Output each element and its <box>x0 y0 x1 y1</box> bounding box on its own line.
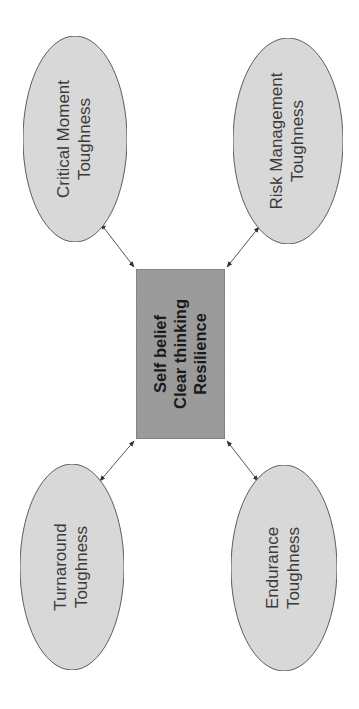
node-label-line-2: Toughness <box>288 100 307 182</box>
node-endurance: Endurance Toughness <box>231 465 337 671</box>
center-label-line-1: Self belief <box>151 315 169 393</box>
toughness-diagram: Critical Moment Toughness Risk Managemen… <box>0 0 359 709</box>
node-label-line-2: Toughness <box>284 527 303 609</box>
node-label-line-1: Critical Moment <box>54 80 73 198</box>
node-label-line-1: Turnaround <box>51 523 70 610</box>
connector-critical-moment <box>101 224 134 267</box>
node-turnaround: Turnaround Toughness <box>20 464 124 670</box>
connector-turnaround <box>100 441 134 481</box>
node-risk-management: Risk Management Toughness <box>233 38 343 244</box>
center-label-line-3: Resilience <box>191 313 209 395</box>
connector-risk-management <box>227 227 259 267</box>
connector-endurance <box>227 441 258 481</box>
center-node: Self belief Clear thinking Resilience <box>136 269 225 439</box>
node-label-line-2: Toughness <box>72 526 91 608</box>
node-label-line-2: Toughness <box>75 98 94 180</box>
node-critical-moment: Critical Moment Toughness <box>23 36 127 242</box>
center-label-line-2: Clear thinking <box>171 299 189 409</box>
node-label-line-1: Endurance <box>263 527 282 609</box>
node-label-line-1: Risk Management <box>267 72 286 209</box>
